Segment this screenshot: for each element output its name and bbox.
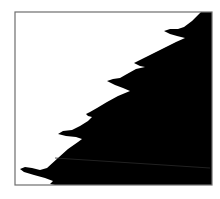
sawtooth-figure [0, 0, 220, 199]
